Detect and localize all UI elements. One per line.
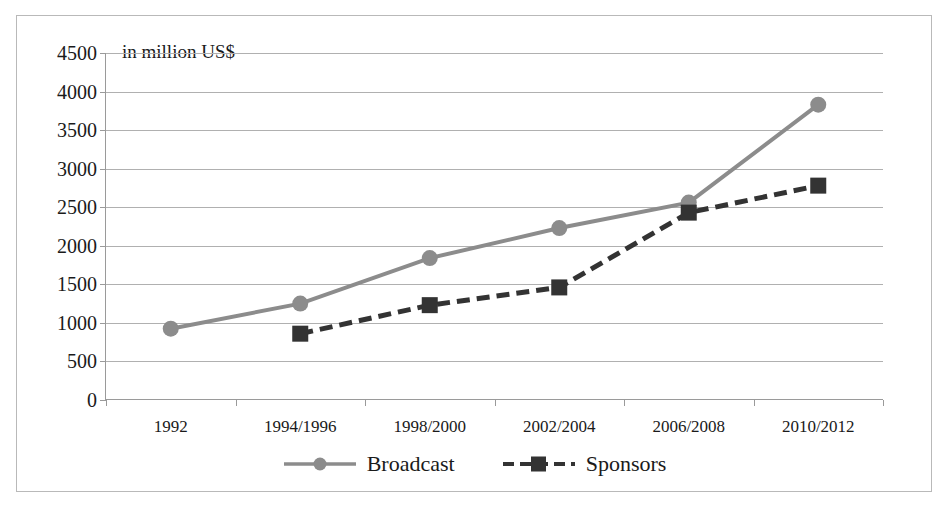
chart-legend: Broadcast Sponsors (17, 453, 931, 475)
series-line-broadcast (171, 105, 819, 329)
y-tick-label: 4500 (57, 43, 97, 63)
x-tick-mark (495, 400, 496, 406)
legend-swatch-broadcast (282, 455, 358, 473)
y-tick-label: 1000 (57, 313, 97, 333)
data-point-marker-square (292, 326, 308, 342)
y-tick-label: 3000 (57, 159, 97, 179)
series-layer (106, 53, 883, 400)
legend-label-broadcast: Broadcast (367, 453, 455, 475)
x-tick-mark (365, 400, 366, 406)
y-tick-label: 2000 (57, 236, 97, 256)
x-tick-mark (106, 400, 107, 406)
data-point-marker-square (681, 205, 697, 221)
legend-label-sponsors: Sponsors (586, 453, 667, 475)
y-tick-label: 0 (87, 390, 97, 410)
x-tick-label: 1994/1996 (264, 418, 337, 435)
legend-item-broadcast[interactable]: Broadcast (282, 453, 455, 475)
data-point-marker-circle (422, 250, 438, 266)
y-tick-label: 1500 (57, 274, 97, 294)
x-tick-label: 1992 (154, 418, 188, 435)
x-tick-mark (236, 400, 237, 406)
x-tick-label: 2002/2004 (523, 418, 596, 435)
data-point-marker-square (422, 297, 438, 313)
data-point-marker-square (810, 178, 826, 194)
chart-figure: in million US$ 0500100015002000250030003… (16, 15, 932, 492)
data-point-marker-circle (292, 296, 308, 312)
series-line-sponsors (300, 186, 818, 334)
y-tick-label: 500 (67, 351, 97, 371)
y-tick-label: 3500 (57, 120, 97, 140)
data-point-marker-circle (551, 220, 567, 236)
data-point-marker-square (551, 279, 567, 295)
plot-area: 050010001500200025003000350040004500 199… (106, 53, 883, 400)
x-tick-label: 2010/2012 (782, 418, 855, 435)
x-tick-mark (754, 400, 755, 406)
legend-swatch-sponsors (501, 455, 577, 473)
x-tick-mark (883, 400, 884, 406)
x-tick-label: 1998/2000 (393, 418, 466, 435)
data-point-marker-circle (810, 97, 826, 113)
data-point-marker-circle (163, 321, 179, 337)
y-tick-label: 2500 (57, 197, 97, 217)
y-tick-label: 4000 (57, 82, 97, 102)
legend-item-sponsors[interactable]: Sponsors (501, 453, 667, 475)
x-tick-label: 2006/2008 (652, 418, 725, 435)
x-tick-mark (624, 400, 625, 406)
